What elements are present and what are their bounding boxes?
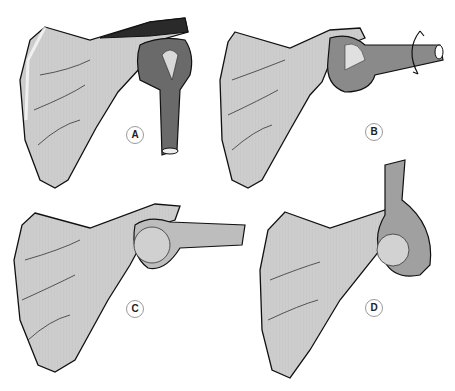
panel-c-illustration: [14, 204, 245, 372]
panel-d-illustration: [260, 160, 431, 378]
panel-label-c: C: [126, 300, 144, 318]
shoulder-diagram: [0, 0, 455, 391]
panel-label-a: A: [126, 126, 144, 144]
panel-b-illustration: [220, 28, 443, 188]
panel-a-illustration: [20, 18, 192, 188]
panel-label-d: D: [365, 299, 383, 317]
panel-label-b: B: [365, 123, 383, 141]
